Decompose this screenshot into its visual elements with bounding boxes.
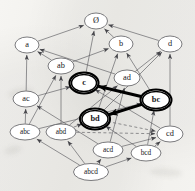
edge-abcd-to-acd (97, 159, 101, 164)
edge-bd-to-b (98, 54, 118, 111)
node-label: bc (152, 95, 161, 104)
node-abd[interactable]: abd (46, 124, 76, 140)
node-abc[interactable]: abc (10, 124, 40, 140)
node-label: abcd (84, 167, 98, 176)
node-label: Ø (93, 16, 99, 25)
edge-bd-to-cd (108, 122, 156, 132)
node-ab[interactable]: ab (48, 58, 74, 74)
edge-abd-to-bd (74, 124, 82, 127)
lattice-graph: Øabdabadcacbcbdabcabdcdacdbcdabcd (0, 0, 195, 191)
edge-bc-to-bd (110, 104, 143, 114)
node-label: cd (166, 129, 175, 138)
node-label: c (82, 78, 86, 87)
node-label: bd (90, 114, 100, 123)
edge-c-to-empty (86, 31, 94, 74)
node-empty[interactable]: Ø (85, 13, 108, 29)
node-c[interactable]: c (70, 73, 99, 94)
edge-b-to-empty (104, 29, 113, 37)
node-label: a (25, 40, 29, 49)
edge-bcd-to-cd (155, 142, 161, 146)
edge-ad-to-d (135, 51, 160, 71)
node-label: ab (57, 61, 65, 70)
node-bc[interactable]: bc (141, 90, 172, 111)
node-bd[interactable]: bd (80, 109, 110, 130)
edge-bcd-to-bc (148, 110, 154, 144)
node-acd[interactable]: acd (93, 142, 123, 158)
node-label: bcd (141, 148, 152, 157)
node-d[interactable]: d (158, 36, 182, 52)
node-layer: Øabdabadcacbcbdabcabdcdacdbcdabcd (10, 13, 183, 181)
edge-abcd-to-abc (37, 139, 80, 165)
node-label: abc (20, 127, 31, 136)
edge-abcd-to-bcd (106, 158, 132, 167)
node-abcd[interactable]: abcd (74, 164, 109, 181)
node-label: acd (103, 145, 113, 154)
edge-abcd-to-abd (68, 141, 85, 164)
edge-a-to-empty (38, 25, 84, 41)
node-label: abd (56, 127, 67, 136)
node-bcd[interactable]: bcd (131, 145, 161, 161)
node-label: ad (123, 73, 132, 82)
diagram-canvas: Øabdabadcacbcbdabcabdcdacdbcdabcd (0, 0, 195, 191)
edge-ac-to-a (26, 55, 27, 91)
node-b[interactable]: b (109, 36, 133, 52)
node-ad[interactable]: ad (114, 70, 140, 86)
node-label: ac (22, 94, 30, 103)
node-label: b (119, 39, 123, 48)
node-ac[interactable]: ac (13, 91, 39, 107)
edge-ab-to-a (38, 52, 52, 61)
edge-ac-to-c (38, 87, 70, 96)
node-a[interactable]: a (15, 37, 39, 53)
node-cd[interactable]: cd (157, 126, 183, 142)
